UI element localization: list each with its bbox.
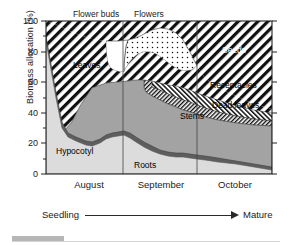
series-label-roots: Roots <box>134 160 156 170</box>
stage-progression-axis: Seedling Mature <box>0 206 292 228</box>
y-axis-ticks-right <box>272 21 277 174</box>
stage-arrow-line <box>85 215 233 216</box>
stage-arrow-head-icon <box>231 211 239 219</box>
stage-label-seedling: Seedling <box>42 209 79 220</box>
series-label-hypocotyl: Hypocotyl <box>56 146 93 156</box>
series-label-stems: Stems <box>180 111 204 121</box>
x-tick-label-september: September <box>124 179 198 190</box>
y-axis-ticks <box>41 21 46 174</box>
x-tick-label-october: October <box>198 179 272 190</box>
biomass-allocation-figure: Biomass allocation (%) 100 80 60 40 20 0… <box>0 0 292 245</box>
series-label-dead-leaves: Dead leaves <box>212 100 259 110</box>
x-tick-label-august: August <box>55 179 123 190</box>
series-label-seeds: Seeds <box>222 45 246 55</box>
series-label-receptacles: Receptacles <box>210 80 257 90</box>
footer-rule <box>12 241 280 242</box>
series-label-leaves: Leaves <box>73 60 100 70</box>
stage-label-mature: Mature <box>243 209 273 220</box>
